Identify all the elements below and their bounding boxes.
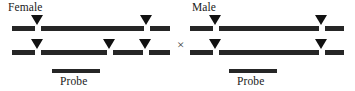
- male-homolog-1-segment: [190, 26, 213, 31]
- female-probe-label: Probe: [60, 76, 87, 87]
- female-parent-label: Female: [8, 2, 42, 13]
- restriction-site-marker: [140, 15, 152, 25]
- female-homolog-1-segment: [12, 26, 35, 31]
- restriction-site-marker: [315, 39, 327, 49]
- genetic-cross-diagram: Female Probe × Male Probe: [0, 0, 355, 91]
- male-homolog-1-segment: [219, 26, 319, 31]
- male-probe-bar: [229, 69, 277, 73]
- restriction-site-marker: [209, 15, 221, 25]
- male-parent-label: Male: [192, 2, 216, 13]
- restriction-site-marker: [31, 15, 43, 25]
- male-homolog-2-segment: [325, 50, 344, 55]
- restriction-site-marker: [31, 39, 43, 49]
- female-homolog-1-segment: [41, 26, 144, 31]
- female-homolog-2-segment: [149, 50, 170, 55]
- male-homolog-2-segment: [219, 50, 319, 55]
- male-probe-label: Probe: [237, 76, 264, 87]
- female-homolog-2-segment: [41, 50, 107, 55]
- male-homolog-1-segment: [325, 26, 344, 31]
- male-homolog-2-segment: [190, 50, 213, 55]
- restriction-site-marker: [315, 15, 327, 25]
- female-homolog-2-segment: [12, 50, 35, 55]
- restriction-site-marker: [209, 39, 221, 49]
- female-homolog-1-segment: [150, 26, 170, 31]
- female-homolog-2-segment: [113, 50, 143, 55]
- restriction-site-marker: [103, 39, 115, 49]
- restriction-site-marker: [139, 39, 151, 49]
- female-probe-bar: [52, 69, 100, 73]
- cross-symbol: ×: [177, 38, 184, 51]
